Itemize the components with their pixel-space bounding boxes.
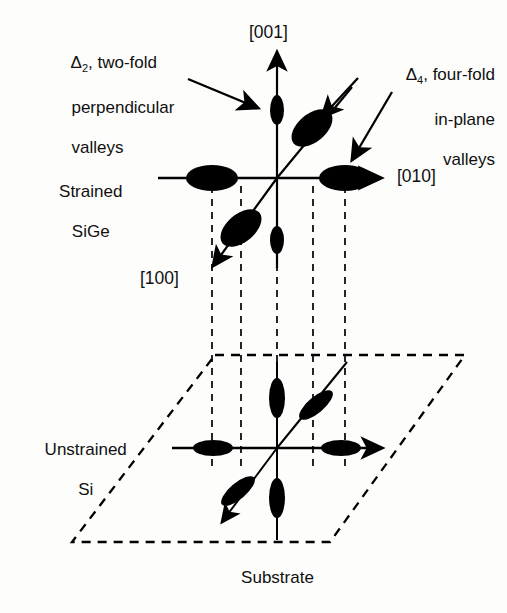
delta4-line3: valleys [443, 150, 495, 169]
valley-ellipse-001-up [269, 378, 285, 418]
delta4-line2: in-plane [435, 110, 496, 129]
delta4-line1: , four-fold [423, 65, 495, 84]
axis-label-001: [001] [249, 22, 288, 43]
delta2-line2: perpendicular [71, 98, 174, 117]
strained-sige-line1: Strained [59, 182, 122, 201]
valley-ellipse-001-down [269, 478, 285, 518]
valley-ellipse-010-left [193, 440, 233, 456]
strained-sige-line2: SiGe [72, 222, 110, 241]
unstrained-si-line2: Si [78, 480, 93, 499]
valley-ellipse-010-left [186, 165, 238, 191]
valley-ellipse-100-front [217, 471, 259, 510]
strained-sige-label: Strained SiGe [16, 162, 156, 242]
delta4-symbol: Δ [406, 65, 417, 84]
valley-ellipse-001-up [270, 95, 284, 125]
delta4-callout-label: Δ4, four-fold in-plane valleys [320, 45, 495, 170]
delta2-symbol: Δ [71, 53, 82, 72]
unstrained-si-line1: Unstrained [45, 440, 127, 459]
delta2-callout-label: Δ2, two-fold perpendicular valleys [62, 33, 232, 158]
axis-label-010: [010] [397, 166, 436, 187]
delta2-line1: , two-fold [88, 53, 157, 72]
valley-ellipse-100-back [295, 385, 337, 424]
valley-ellipse-100-front [214, 202, 269, 254]
substrate-label: Substrate [205, 568, 350, 588]
unstrained-si-label: Unstrained Si [6, 420, 156, 500]
axis-label-100: [100] [140, 268, 179, 289]
valley-ellipse-010-right [321, 440, 361, 456]
valley-ellipse-001-down [270, 226, 284, 254]
delta2-line3: valleys [71, 138, 123, 157]
